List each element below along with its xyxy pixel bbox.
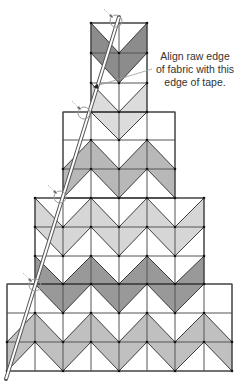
callout-text: Align raw edge of fabric with this edge … — [150, 50, 239, 89]
callout-line-3: edge of tape. — [150, 76, 239, 89]
callout-line-2: of fabric with this — [150, 63, 239, 76]
callout-line-1: Align raw edge — [150, 50, 239, 63]
